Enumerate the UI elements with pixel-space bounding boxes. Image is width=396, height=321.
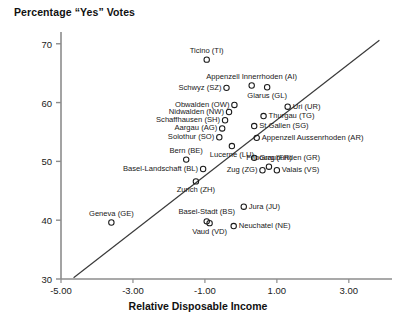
data-point-marker[interactable] <box>226 109 231 114</box>
data-point-label: Ticino (TI) <box>190 47 224 55</box>
data-point-marker[interactable] <box>285 104 290 109</box>
data-point-label: Glarus (GL) <box>247 92 287 100</box>
data-point-marker[interactable] <box>274 168 279 173</box>
data-point-label: Zurich (ZH) <box>177 186 215 194</box>
data-point-marker[interactable] <box>109 220 114 225</box>
data-point-marker[interactable] <box>249 83 254 88</box>
data-point-label: Geneva (GE) <box>89 210 134 218</box>
data-point-label: Jura (JU) <box>249 203 280 211</box>
data-point-label: Basel-Stadt (BS) <box>178 208 235 216</box>
data-point-label: Fribourg (FR) <box>246 154 292 162</box>
data-point-marker[interactable] <box>219 126 224 131</box>
x-tick-label: -3.00 <box>122 285 144 296</box>
scatter-plot-figure: Percentage “Yes” Votes 3040506070 -5.00-… <box>0 0 396 321</box>
x-axis-title: Relative Disposable Income <box>0 300 396 312</box>
data-point-label: Uri (UR) <box>293 103 321 111</box>
data-point-marker[interactable] <box>232 102 237 107</box>
data-point-label: Schwyz (SZ) <box>178 84 221 92</box>
y-tick-label: 70 <box>22 38 52 49</box>
x-tick-label: 3.00 <box>340 285 359 296</box>
data-point-label: St.Gallen (SG) <box>259 122 308 130</box>
data-point-label: Aargau (AG) <box>175 124 218 132</box>
y-tick-label: 60 <box>22 97 52 108</box>
data-point-label: Vaud (VD) <box>192 228 227 236</box>
data-point-label: Solothur (SO) <box>168 133 214 141</box>
data-point-label: Appenzell Aussenrhoden (AR) <box>262 134 364 142</box>
data-point-label: Zug (ZG) <box>227 166 258 174</box>
y-tick-label: 50 <box>22 156 52 167</box>
data-point-marker[interactable] <box>241 204 246 209</box>
data-point-marker[interactable] <box>231 223 236 228</box>
data-point-label: Neuchatel (NE) <box>239 222 291 230</box>
data-point-label: Appenzell Innerrhoden (AI) <box>206 73 297 81</box>
data-point-label: Thurgau (TG) <box>269 112 315 120</box>
data-point-marker[interactable] <box>229 143 234 148</box>
x-tick-label: -5.00 <box>50 285 72 296</box>
data-point-label: Basel-Landschaft (BL) <box>123 165 198 173</box>
y-tick-label: 30 <box>22 274 52 285</box>
data-point-marker[interactable] <box>204 57 209 62</box>
data-point-marker[interactable] <box>184 157 189 162</box>
data-point-label: Bern (BE) <box>170 147 203 155</box>
data-point-marker[interactable] <box>252 123 257 128</box>
data-point-marker[interactable] <box>217 135 222 140</box>
data-point-marker[interactable] <box>261 113 266 118</box>
data-point-marker[interactable] <box>266 164 271 169</box>
x-tick-label: 1.00 <box>268 285 287 296</box>
data-point-marker[interactable] <box>264 85 269 90</box>
y-tick-label: 40 <box>22 215 52 226</box>
data-point-marker[interactable] <box>200 166 205 171</box>
data-point-marker[interactable] <box>260 168 265 173</box>
data-point-marker[interactable] <box>224 85 229 90</box>
data-point-marker[interactable] <box>222 118 227 123</box>
data-point-label: Valais (VS) <box>282 166 319 174</box>
x-tick-label: -1.00 <box>194 285 216 296</box>
